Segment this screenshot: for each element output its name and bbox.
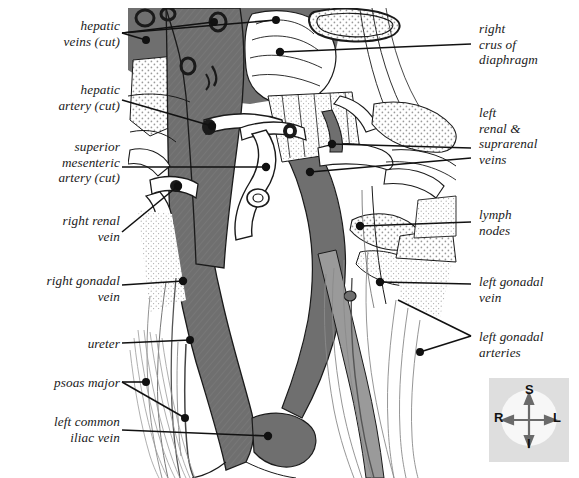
quadratus-lumborum bbox=[414, 196, 456, 238]
right-gonadal-vein bbox=[171, 278, 180, 478]
compass-inferior: I bbox=[527, 436, 531, 451]
label-left-gonadal-arteries: left gonadal arteries bbox=[479, 329, 577, 360]
left-psoas-stipple bbox=[398, 258, 452, 318]
label-hepatic-veins-cut: hepatic veins (cut) bbox=[2, 18, 120, 49]
left-ureter bbox=[384, 169, 444, 198]
label-superior-mesenteric-artery-cut: superior mesenteric artery (cut) bbox=[2, 139, 120, 186]
right-kidney-edge bbox=[128, 149, 170, 176]
compass-right: R bbox=[494, 410, 503, 425]
orientation-compass: S I R L bbox=[489, 378, 569, 462]
illustration-body bbox=[128, 8, 456, 478]
label-left-common-iliac-vein: left common iliac vein bbox=[2, 414, 120, 445]
label-right-renal-vein: right renal vein bbox=[2, 213, 120, 244]
label-hepatic-artery-cut: hepatic artery (cut) bbox=[2, 82, 120, 113]
label-right-gonadal-vein: right gonadal vein bbox=[2, 273, 120, 304]
left-common-iliac-vein bbox=[252, 413, 316, 467]
left-gonadal-vein-node bbox=[344, 291, 356, 301]
superior-mesenteric-artery-cut bbox=[235, 130, 276, 240]
anatomy-figure: hepatic veins (cut) hepatic artery (cut)… bbox=[0, 0, 579, 478]
label-psoas-major: psoas major bbox=[2, 375, 120, 391]
label-ureter: ureter bbox=[2, 336, 120, 352]
left-kidney-hilum bbox=[372, 102, 456, 152]
ureter bbox=[185, 344, 194, 478]
compass-superior: S bbox=[525, 382, 534, 397]
label-left-renal-suprarenal-veins: left renal & suprarenal veins bbox=[479, 105, 577, 167]
label-right-crus-of-diaphragm: right crus of diaphragm bbox=[479, 21, 577, 68]
label-lymph-nodes: lymph nodes bbox=[479, 207, 577, 238]
compass-left: L bbox=[553, 410, 561, 425]
label-left-gonadal-vein: left gonadal vein bbox=[479, 274, 577, 305]
